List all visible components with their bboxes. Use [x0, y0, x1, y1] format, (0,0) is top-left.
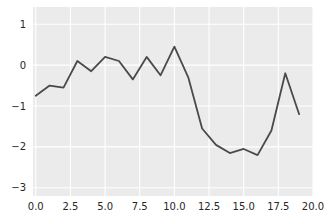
x-tick-label: 0.0	[28, 201, 44, 212]
y-tick-label: −1	[11, 101, 26, 112]
y-tick-label: 1	[20, 19, 26, 30]
x-tick-label: 20.0	[302, 201, 324, 212]
plot-area	[33, 7, 313, 196]
x-tick-label: 15.0	[233, 201, 255, 212]
line-chart-figure: 0.02.55.07.510.012.515.017.520.010−1−2−3	[0, 0, 324, 222]
x-tick-label: 12.5	[198, 201, 220, 212]
x-tick-label: 5.0	[97, 201, 113, 212]
line-chart: 0.02.55.07.510.012.515.017.520.010−1−2−3	[0, 0, 324, 222]
y-tick-label: 0	[20, 60, 26, 71]
y-tick-label: −2	[11, 141, 26, 152]
x-tick-label: 17.5	[267, 201, 289, 212]
x-tick-label: 10.0	[163, 201, 185, 212]
x-tick-label: 2.5	[62, 201, 78, 212]
y-tick-label: −3	[11, 182, 26, 193]
x-tick-label: 7.5	[132, 201, 148, 212]
